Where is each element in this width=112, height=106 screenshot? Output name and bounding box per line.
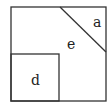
label-d: d [31, 72, 40, 88]
label-e: e [67, 36, 75, 52]
label-a: a [93, 14, 101, 30]
geometry-diagram: a e d [0, 0, 112, 106]
